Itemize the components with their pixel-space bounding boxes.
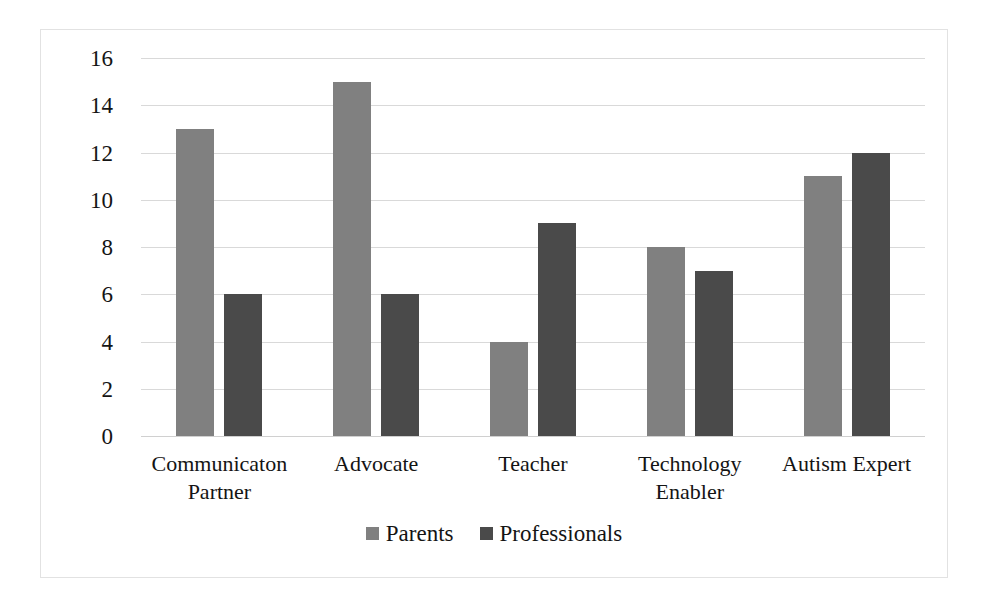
- category-label-line: Autism Expert: [770, 450, 923, 478]
- bar-group: [611, 58, 768, 436]
- legend-label: Professionals: [500, 522, 623, 545]
- bar-group: [141, 58, 298, 436]
- legend-swatch-icon: [480, 527, 493, 540]
- legend-label: Parents: [386, 522, 454, 545]
- bar-parents-1[interactable]: [333, 82, 371, 436]
- legend-item-parents[interactable]: Parents: [366, 522, 454, 545]
- y-axis-tick-label: 6: [41, 283, 113, 306]
- chart-frame: 1614121086420 CommunicatonPartnerAdvocat…: [40, 29, 948, 578]
- y-axis-tick-label: 10: [41, 188, 113, 211]
- bar-parents-2[interactable]: [490, 342, 528, 437]
- category-label-line: Enabler: [613, 478, 766, 506]
- gridline-0: [141, 436, 925, 437]
- category-label-line: Advocate: [300, 450, 453, 478]
- y-axis-tick-label: 14: [41, 94, 113, 117]
- category-label-line: Communicaton: [143, 450, 296, 478]
- y-axis-tick-label: 0: [41, 425, 113, 448]
- y-axis-tick-label: 16: [41, 47, 113, 70]
- y-axis-tick-label: 4: [41, 330, 113, 353]
- category-label-line: Partner: [143, 478, 296, 506]
- x-axis-category-label: TechnologyEnabler: [611, 444, 768, 514]
- y-axis-tick-label: 2: [41, 377, 113, 400]
- bar-parents-4[interactable]: [804, 176, 842, 436]
- legend-item-professionals[interactable]: Professionals: [480, 522, 623, 545]
- x-axis-category-label: CommunicatonPartner: [141, 444, 298, 514]
- x-axis-category-label: Autism Expert: [768, 444, 925, 514]
- x-axis-category-label: Teacher: [455, 444, 612, 514]
- bar-parents-3[interactable]: [647, 247, 685, 436]
- plot-wrapper: 1614121086420 CommunicatonPartnerAdvocat…: [41, 30, 947, 577]
- x-axis-category-label: Advocate: [298, 444, 455, 514]
- plot-area: [141, 58, 925, 436]
- y-axis-tick-label: 12: [41, 141, 113, 164]
- bar-parents-0[interactable]: [176, 129, 214, 436]
- bar-group: [768, 58, 925, 436]
- bar-professionals-3[interactable]: [695, 271, 733, 436]
- bar-professionals-0[interactable]: [224, 294, 262, 436]
- chart-legend: ParentsProfessionals: [41, 522, 947, 545]
- bar-group: [298, 58, 455, 436]
- y-axis-tick-label: 8: [41, 236, 113, 259]
- category-label-line: Technology: [613, 450, 766, 478]
- bar-professionals-1[interactable]: [381, 294, 419, 436]
- bar-professionals-2[interactable]: [538, 223, 576, 436]
- x-axis-category-labels: CommunicatonPartnerAdvocateTeacherTechno…: [141, 444, 925, 514]
- legend-swatch-icon: [366, 527, 379, 540]
- category-label-line: Teacher: [457, 450, 610, 478]
- bar-group: [455, 58, 612, 436]
- bar-professionals-4[interactable]: [852, 153, 890, 437]
